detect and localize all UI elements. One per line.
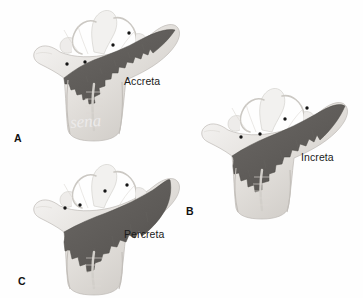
vessel-dot [83,60,86,63]
vessel-dot [258,132,261,135]
panel-b-increta [190,82,360,222]
caption-percreta: Percreta [124,228,164,240]
panel-letter-c: C [18,275,26,287]
watermark-text: sena [69,111,101,133]
vessel-dot [125,183,128,186]
caption-increta: Increta [301,151,334,163]
fundus-folds [92,10,117,54]
panel-c-illustration [22,156,192,298]
placenta-accreta-figure: Accreta A [0,0,363,298]
panel-b-illustration [190,82,360,222]
vessel-dot [305,106,308,109]
vessel-dot [283,117,286,120]
caption-accreta: Accreta [124,75,160,87]
vessel-dot [103,189,106,192]
vessel-dot [65,62,68,65]
panel-a-accreta [22,4,192,144]
vessel-dot [127,31,130,34]
vessel-dot [78,203,81,206]
fundus-folds [260,88,285,132]
vessel-dot [111,43,114,46]
panel-letter-a: A [14,132,22,144]
panel-a-illustration [22,4,192,144]
panel-c-percreta [22,156,192,298]
vessel-dot [63,206,66,209]
fundus-folds [92,164,117,208]
vessel-dot [239,135,242,138]
